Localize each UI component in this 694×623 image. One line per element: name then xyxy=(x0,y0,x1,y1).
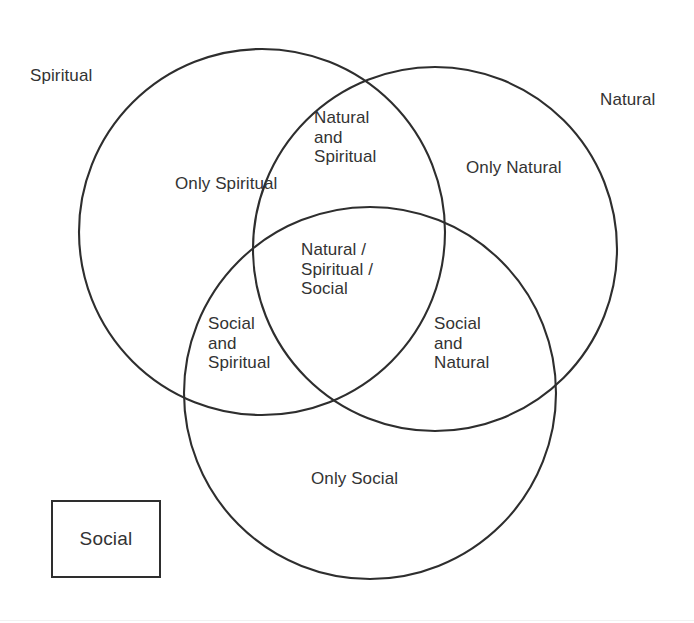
set-label-spiritual: Spiritual xyxy=(30,66,92,86)
region-label-only-spiritual: Only Spiritual xyxy=(175,174,278,194)
region-label-all-three: Natural / Spiritual / Social xyxy=(301,240,373,299)
legend-box-social-label: Social xyxy=(80,528,133,550)
region-label-social-and-natural: Social and Natural xyxy=(434,314,490,373)
region-label-only-natural: Only Natural xyxy=(466,158,562,178)
region-label-only-social: Only Social xyxy=(311,469,398,489)
venn-diagram-canvas: Spiritual Natural Only Spiritual Natural… xyxy=(0,0,694,623)
bottom-divider xyxy=(0,620,694,621)
set-label-natural: Natural xyxy=(600,90,656,110)
region-label-social-and-spiritual: Social and Spiritual xyxy=(208,314,270,373)
legend-box-social: Social xyxy=(51,500,161,578)
region-label-natural-and-spiritual: Natural and Spiritual xyxy=(314,108,376,167)
